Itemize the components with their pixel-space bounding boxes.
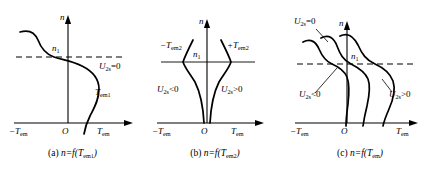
y-axis-arrow (344, 21, 350, 30)
panel-c: n U2s=0 n1 U2s<0 U2s>0 −Tem O Tem (c) n=… (285, 0, 435, 176)
panel-a: n n1 U2s=0 Tem1 −Tem O Tem (a) n=f(Tem1) (0, 0, 145, 176)
curve-u2s-zero (321, 36, 370, 126)
curve-label-pos-tem2-b: +Tem2 (227, 41, 249, 50)
curve-label-u2s-positive-b: U2s>0 (221, 85, 243, 94)
curve-u2s-positive (210, 40, 231, 123)
marker-n1-c: n1 (351, 52, 359, 61)
figure-container: n n1 U2s=0 Tem1 −Tem O Tem (a) n=f(Tem1) (0, 0, 435, 176)
y-axis-label-b: n (199, 17, 204, 26)
marker-n1-a: n1 (52, 44, 60, 53)
x-axis-label-right-b: Tem (231, 127, 244, 136)
curve-label-u2s-positive-c: U2s>0 (389, 90, 411, 99)
y-axis-label-c: n (339, 19, 344, 28)
y-axis-arrow (65, 15, 71, 24)
leader-u2s-zero (316, 29, 328, 42)
x-axis-arrow (409, 120, 418, 126)
caption-c: (c) n=f(Tem) (285, 148, 435, 158)
x-axis-label-left-b: −Tem (152, 127, 171, 136)
x-axis-label-left-c: −Tem (290, 127, 309, 136)
caption-a: (a) n=f(Tem1) (0, 148, 145, 158)
curve-label-u2s-negative-c: U2s<0 (299, 90, 321, 99)
panel-b: n −Tem2 +Tem2 n1 U2s<0 U2s>0 −Tem O Tem … (145, 0, 285, 176)
origin-label-c: O (341, 127, 348, 136)
x-axis-arrow (124, 120, 133, 126)
origin-label-b: O (201, 127, 208, 136)
curve-label-tem1-a: Tem1 (95, 88, 111, 97)
x-axis-label-right-c: Tem (396, 127, 409, 136)
curve-label-neg-tem2-b: −Tem2 (160, 41, 182, 50)
y-axis-label-a: n (60, 13, 65, 22)
curve-label-u2s-zero-c: U2s=0 (294, 17, 316, 26)
x-axis-arrow (255, 120, 264, 126)
caption-b: (b) n=f(Tem2) (145, 148, 285, 158)
curve-label-u2s-negative-b: U2s<0 (157, 85, 179, 94)
marker-n1-b: n1 (193, 50, 201, 59)
curve-label-u2s-zero-a: U2s=0 (99, 62, 121, 71)
origin-label-a: O (62, 127, 69, 136)
curve-u2s-negative (303, 40, 349, 126)
x-axis-label-right-a: Tem (97, 127, 110, 136)
y-axis-arrow (204, 19, 210, 28)
x-axis-label-left-a: −Tem (9, 127, 28, 136)
